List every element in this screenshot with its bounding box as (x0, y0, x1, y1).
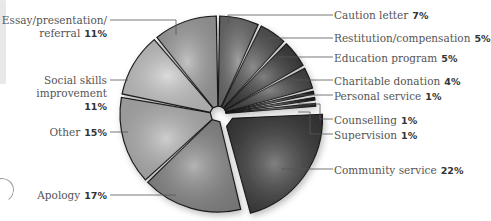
label-essay-presentation-referral: Essay/presentation/ referral11% (2, 14, 107, 40)
label-personal-service: Personal service1% (334, 90, 441, 103)
label-supervision: Supervision1% (334, 129, 417, 142)
label-apology: Apology17% (37, 189, 107, 202)
label-counselling: Counselling1% (334, 114, 417, 127)
label-social-skills: Social skills improvement 11% (36, 74, 107, 113)
label-restitution: Restitution/compensation5% (334, 32, 491, 45)
label-caution-letter: Caution letter7% (334, 9, 428, 22)
pie-slice-shading (227, 114, 323, 213)
label-education-program: Education program5% (334, 52, 457, 65)
label-community-service: Community service22% (334, 164, 463, 177)
label-charitable-donation: Charitable donation4% (334, 75, 460, 88)
label-other: Other15% (49, 126, 107, 139)
